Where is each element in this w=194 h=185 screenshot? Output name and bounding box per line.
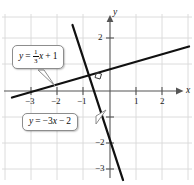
fraction-denominator: 3 [33, 56, 39, 65]
coordinate-graph-figure: y x −3 −2 −1 1 2 2 −2 −3 y = 1 3 x + 1 y… [0, 0, 194, 185]
graph-canvas [0, 0, 194, 185]
equation-line-one: y = 1 3 x + 1 [19, 49, 57, 65]
tick-label-x-neg2: −2 [51, 97, 61, 106]
equation-constant: 2 [66, 117, 71, 127]
equation-slope: −3 [43, 117, 53, 127]
tick-label-y-neg2: −2 [95, 138, 105, 147]
x-axis-label: x [186, 86, 190, 96]
tick-label-x-2: 2 [160, 97, 165, 106]
equals-sign: = [33, 117, 42, 127]
minus-sign: − [57, 117, 66, 127]
y-axis-label: y [113, 8, 117, 18]
tick-label-x-1: 1 [134, 97, 139, 106]
leader-tail-line1 [38, 70, 55, 86]
fraction-numerator: 1 [33, 49, 39, 57]
equation-callout-line-two: y = −3 x − 2 [22, 113, 78, 131]
y-axis [107, 15, 114, 178]
tick-label-x-neg3: −3 [25, 97, 35, 106]
equation-line-two: y = −3 x − 2 [29, 117, 71, 127]
equation-callout-line-one: y = 1 3 x + 1 [12, 45, 64, 69]
x-axis-arrow [176, 88, 184, 95]
equals-sign: = [23, 52, 32, 62]
tick-label-x-neg1: −1 [77, 97, 87, 106]
tick-label-y-neg3: −3 [95, 164, 105, 173]
right-angle-marker [95, 73, 102, 80]
equation-constant: 1 [53, 52, 58, 62]
tick-label-y-2: 2 [98, 33, 103, 42]
plus-sign: + [43, 52, 52, 62]
fraction-one-third: 1 3 [33, 49, 39, 65]
